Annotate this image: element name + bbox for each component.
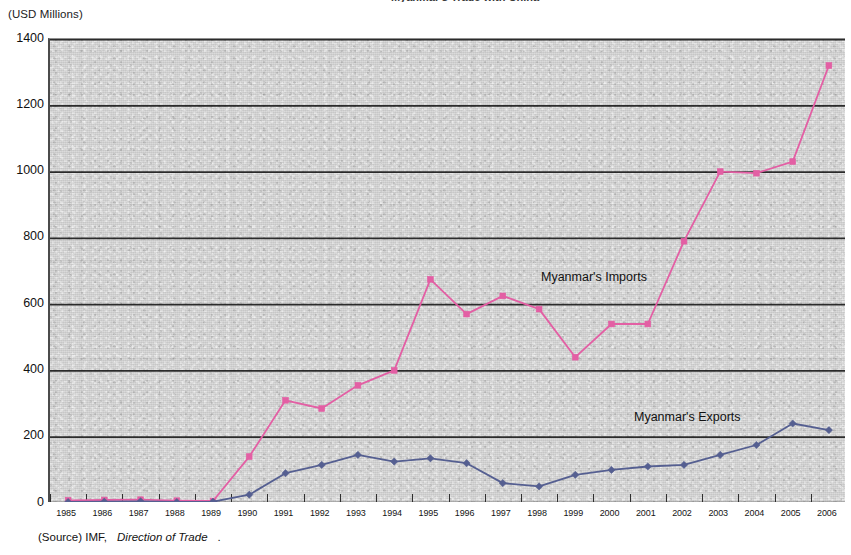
data-point-marker: [536, 306, 542, 312]
plot-area: [48, 38, 845, 502]
chart-title: Myanmar's Trade with China: [300, 0, 630, 2]
x-axis-tick-label: 1987: [129, 508, 149, 518]
x-axis-tick-label: 1986: [93, 508, 113, 518]
x-axis-tick-label: 1988: [165, 508, 185, 518]
x-axis-tick-labels: 1985198619871988198919901991199219931994…: [48, 508, 845, 524]
data-point-marker: [319, 406, 325, 412]
x-axis-tick-label: 1992: [310, 508, 330, 518]
y-axis-tick-label: 800: [2, 230, 44, 243]
x-axis-tick-label: 2000: [600, 508, 620, 518]
data-point-marker: [536, 483, 543, 490]
data-point-marker: [427, 455, 434, 462]
data-point-marker: [499, 480, 506, 487]
x-axis-tick-label: 2006: [817, 508, 837, 518]
data-point-marker: [609, 321, 615, 327]
x-axis-tick-label: 1996: [455, 508, 475, 518]
data-point-marker: [464, 311, 470, 317]
x-axis-tick-label: 2004: [745, 508, 765, 518]
x-axis-tick-label: 1999: [563, 508, 583, 518]
data-point-marker: [790, 159, 796, 165]
x-axis-tick-label: 2003: [708, 508, 728, 518]
data-point-marker: [354, 451, 361, 458]
x-axis-tick-label: 1989: [201, 508, 221, 518]
series-annotation-exports: Myanmar's Exports: [634, 410, 741, 424]
data-point-marker: [645, 321, 651, 327]
data-point-marker: [463, 460, 470, 467]
series-line-exports: [68, 424, 829, 503]
data-point-marker: [608, 466, 615, 473]
data-point-marker: [428, 276, 434, 282]
data-point-marker: [355, 382, 361, 388]
data-point-marker: [500, 293, 506, 299]
y-axis-unit-label: (USD Millions): [8, 8, 83, 20]
y-axis-tick-label: 1400: [2, 32, 44, 45]
source-note: (Source) IMF,Direction of Trade.: [38, 531, 221, 543]
series-annotation-imports: Myanmar's Imports: [541, 270, 647, 284]
data-point-marker: [754, 170, 760, 176]
x-axis-tick-label: 1995: [419, 508, 439, 518]
data-point-marker: [391, 368, 397, 374]
series-line-imports: [68, 66, 829, 502]
x-axis-tick-label: 1991: [274, 508, 294, 518]
data-point-marker: [717, 451, 724, 458]
source-prefix: (Source) IMF,: [38, 531, 107, 543]
data-point-marker: [717, 169, 723, 175]
y-axis-tick-label: 0: [2, 496, 44, 509]
x-axis-tick-label: 1998: [527, 508, 547, 518]
data-point-marker: [644, 463, 651, 470]
data-point-marker: [318, 461, 325, 468]
data-point-marker: [826, 63, 832, 69]
data-point-marker: [680, 461, 687, 468]
x-axis-tick-label: 2002: [672, 508, 692, 518]
x-axis-tick-label: 2001: [636, 508, 656, 518]
x-axis-tick-label: 1993: [346, 508, 366, 518]
x-axis-tick-label: 1994: [382, 508, 402, 518]
data-point-marker: [246, 491, 253, 498]
y-axis-tick-label: 1000: [2, 164, 44, 177]
data-point-marker: [572, 354, 578, 360]
x-axis-tick-label: 1997: [491, 508, 511, 518]
y-axis-tick-label: 1200: [2, 98, 44, 111]
data-point-marker: [825, 427, 832, 434]
y-axis-tick-label: 200: [2, 429, 44, 442]
source-suffix: .: [218, 531, 221, 543]
x-axis-tick-label: 1985: [56, 508, 76, 518]
chart-root: Myanmar's Trade with China (USD Millions…: [0, 0, 851, 555]
data-point-marker: [283, 397, 289, 403]
data-point-marker: [681, 238, 687, 244]
y-axis-tick-label: 600: [2, 297, 44, 310]
source-publication: Direction of Trade: [117, 531, 208, 543]
data-point-marker: [246, 454, 252, 460]
data-point-marker: [572, 471, 579, 478]
y-axis-tick-label: 400: [2, 363, 44, 376]
data-point-marker: [391, 458, 398, 465]
y-axis-tick-labels: 0200400600800100012001400: [0, 38, 44, 502]
x-axis-tick-label: 1990: [237, 508, 257, 518]
plot-series-canvas: [50, 39, 845, 502]
x-axis-tick-label: 2005: [781, 508, 801, 518]
